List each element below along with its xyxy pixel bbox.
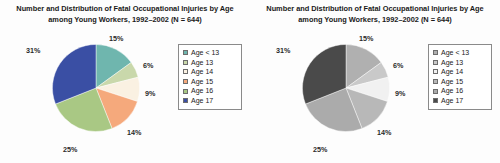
pie-svg-color: [52, 44, 140, 132]
pie-slices-grayscale: [302, 44, 389, 131]
pie-label-age-17-color: 31%: [26, 46, 40, 55]
legend-item-label: Age 16: [441, 86, 463, 96]
legend-item-label: Age 16: [191, 86, 213, 96]
legend-swatch-icon: [183, 79, 188, 84]
legend-swatch-icon: [183, 50, 188, 55]
legend-item-label: Age < 13: [441, 48, 469, 58]
pie-label-age-16-grayscale: 25%: [313, 145, 327, 154]
figure-container: Number and Distribution of Fatal Occupat…: [0, 0, 500, 163]
legend-item[interactable]: Age 17: [433, 96, 487, 106]
legend-item[interactable]: Age 15: [433, 77, 487, 87]
chart-title-color: Number and Distribution of Fatal Occupat…: [4, 4, 246, 25]
pie-label-age-17-grayscale: 31%: [276, 46, 290, 55]
pie-label-age-14-grayscale: 9%: [395, 89, 405, 98]
legend-color: Age < 13Age 13Age 14Age 15Age 16Age 17: [178, 44, 242, 110]
legend-item-label: Age 14: [191, 67, 213, 77]
legend-item[interactable]: Age 14: [183, 67, 237, 77]
pie-label-age-lt-13-grayscale: 15%: [359, 34, 373, 43]
legend-swatch-icon: [183, 60, 188, 65]
legend-item[interactable]: Age 15: [183, 77, 237, 87]
legend-swatch-icon: [183, 69, 188, 74]
legend-swatch-icon: [433, 79, 438, 84]
legend-item[interactable]: Age 14: [433, 67, 487, 77]
legend-grayscale: Age < 13Age 13Age 14Age 15Age 16Age 17: [428, 44, 492, 110]
pie-chart-color: [52, 44, 140, 132]
legend-swatch-icon: [433, 50, 438, 55]
legend-item[interactable]: Age 13: [183, 58, 237, 68]
pie-label-age-13-color: 6%: [143, 61, 153, 70]
chart-panel-grayscale: Number and Distribution of Fatal Occupat…: [250, 0, 500, 163]
pie-label-age-15-grayscale: 14%: [377, 128, 391, 137]
legend-item[interactable]: Age 16: [433, 86, 487, 96]
pie-slices-color: [52, 44, 139, 131]
legend-item[interactable]: Age 16: [183, 86, 237, 96]
legend-item-label: Age 17: [441, 96, 463, 106]
legend-swatch-icon: [433, 60, 438, 65]
pie-label-age-16-color: 25%: [63, 145, 77, 154]
legend-item[interactable]: Age < 13: [433, 48, 487, 58]
legend-item[interactable]: Age 17: [183, 96, 237, 106]
legend-item-label: Age 15: [191, 77, 213, 87]
legend-swatch-icon: [433, 98, 438, 103]
legend-item-label: Age 13: [191, 58, 213, 68]
legend-item-label: Age 15: [441, 77, 463, 87]
chart-title-grayscale: Number and Distribution of Fatal Occupat…: [254, 4, 496, 25]
pie-label-age-15-color: 14%: [127, 128, 141, 137]
pie-svg-grayscale: [302, 44, 390, 132]
legend-swatch-icon: [183, 98, 188, 103]
legend-item-label: Age 14: [441, 67, 463, 77]
legend-item-label: Age 17: [191, 96, 213, 106]
chart-panel-color: Number and Distribution of Fatal Occupat…: [0, 0, 250, 163]
pie-label-age-14-color: 9%: [145, 89, 155, 98]
legend-swatch-icon: [433, 69, 438, 74]
legend-swatch-icon: [183, 89, 188, 94]
pie-label-age-13-grayscale: 6%: [393, 61, 403, 70]
legend-item-label: Age < 13: [191, 48, 219, 58]
legend-item[interactable]: Age 13: [433, 58, 487, 68]
legend-item-label: Age 13: [441, 58, 463, 68]
pie-chart-grayscale: [302, 44, 390, 132]
legend-swatch-icon: [433, 89, 438, 94]
legend-item[interactable]: Age < 13: [183, 48, 237, 58]
pie-label-age-lt-13-color: 15%: [109, 34, 123, 43]
